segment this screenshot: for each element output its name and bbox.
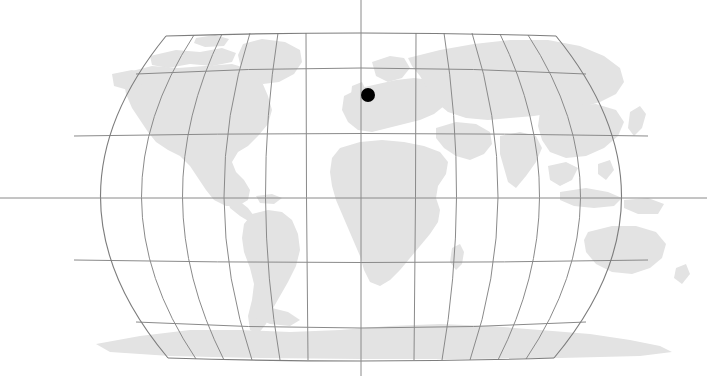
world-map-canvas xyxy=(0,0,707,376)
location-marker-dot[interactable] xyxy=(361,88,375,102)
world-locator-map-figure xyxy=(0,0,707,376)
